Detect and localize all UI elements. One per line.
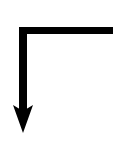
bent-arrow-diagram: [0, 0, 128, 141]
arrow-down-left-turn-icon: [0, 0, 128, 141]
arrow-horizontal-segment: [19, 27, 113, 34]
arrow-vertical-segment: [19, 27, 27, 111]
